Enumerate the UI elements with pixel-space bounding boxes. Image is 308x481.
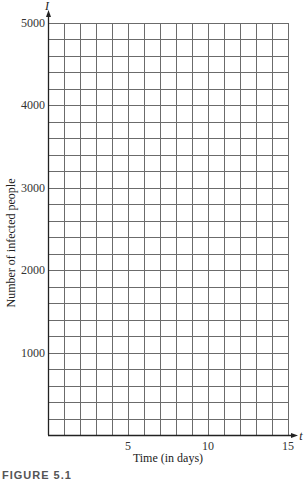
axes [46,10,298,438]
grid-lines [48,23,289,436]
y-tick-labels: 10002000300040005000 [21,16,45,360]
y-tick-label: 2000 [21,263,45,277]
x-tick-label: 15 [282,439,294,453]
x-axis-title: Time (in days) [133,451,203,465]
x-tick-label: 10 [202,439,214,453]
figure-caption: FIGURE 5.1 [2,469,72,481]
y-axis-variable: I [44,0,50,13]
y-tick-label: 5000 [21,16,45,30]
y-axis-title: Number of infected people [4,179,18,308]
x-axis-arrow-icon [291,433,298,438]
y-tick-label: 3000 [21,181,45,195]
x-axis-variable: t [299,429,303,443]
x-tick-label: 5 [125,439,131,453]
y-tick-label: 1000 [21,346,45,360]
y-tick-label: 4000 [21,98,45,112]
